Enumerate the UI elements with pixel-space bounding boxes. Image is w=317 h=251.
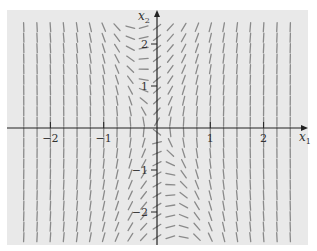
slope-segment [63,54,64,63]
slope-segment [237,44,238,53]
slope-segment [77,75,78,84]
slope-segment [90,75,91,84]
slope-segment [237,191,238,200]
slope-segment [197,138,198,147]
slope-segment [223,170,224,179]
slope-segment [103,96,104,105]
slope-segment [77,201,78,210]
slope-segment [63,222,64,231]
slope-segment [263,23,264,32]
slope-segment [63,23,64,32]
x-tick-label: −2 [42,132,58,145]
slope-segment [63,33,64,42]
slope-segment [197,107,198,116]
slope-segment [250,44,251,53]
slope-segment [250,222,251,231]
slope-segment [210,96,211,105]
slope-segment [143,128,144,137]
slope-segment [117,138,118,147]
slope-segment [237,54,238,63]
slope-segment [250,23,251,32]
slope-field-chart: −2−11221−1−2 x1 x2 [0,0,317,251]
slope-segment [117,107,118,116]
x-axis-label: x1 [299,130,311,146]
slope-segment [263,33,264,42]
slope-segment [77,191,78,200]
slope-segment [90,96,91,105]
slope-segment [63,44,64,53]
slope-segment [263,222,264,231]
x-tick-label: −1 [96,132,112,145]
y-tick-label: −1 [132,164,148,177]
slope-segment [90,170,91,179]
y-tick-label: 1 [141,80,148,93]
slope-segment [50,33,51,42]
slope-segment [166,195,175,196]
slope-segment [250,201,251,210]
slope-segment [77,54,78,63]
slope-segment [63,212,64,221]
slope-segment [77,65,78,74]
slope-segment [103,149,104,158]
slope-segment [223,75,224,84]
slope-segment [237,65,238,74]
slope-segment [250,212,251,221]
slope-segment [50,233,51,242]
slope-segment [130,117,131,126]
slope-segment [263,212,264,221]
slope-segment [183,117,184,126]
slope-segment [50,23,51,32]
slope-segment [250,54,251,63]
y-tick-label: −2 [132,206,148,219]
slope-segment [63,201,64,210]
slope-segment [77,170,78,179]
slope-segment [50,222,51,231]
y-tick-label: 2 [141,38,148,51]
x-tick-label: 1 [207,132,214,145]
slope-segment [223,159,224,168]
slope-segment [63,191,64,200]
slope-segment [250,191,251,200]
slope-segment [210,149,211,158]
slope-segment [103,107,104,116]
slope-segment [237,170,238,179]
slope-segment [263,233,264,242]
slope-segment [250,33,251,42]
slope-segment [139,58,148,59]
slope-segment [237,75,238,84]
slope-segment [237,180,238,189]
slope-segment [90,86,91,95]
slope-segment [90,159,91,168]
x-tick-label: 2 [260,132,267,145]
slope-segment [223,86,224,95]
slope-segment [63,233,64,242]
slope-segment [77,180,78,189]
